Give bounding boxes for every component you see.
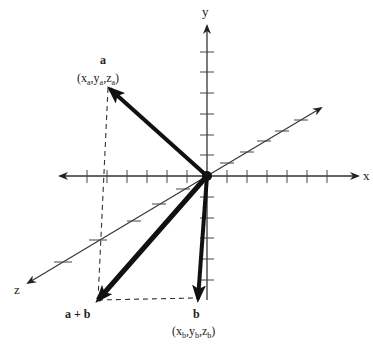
label-vector-b: b (xb,yb,zb) bbox=[172, 307, 215, 340]
vector-a-plus-b bbox=[98, 176, 207, 300]
z-axis: z bbox=[14, 108, 321, 297]
y-axis-label: y bbox=[202, 4, 209, 19]
origin-point bbox=[202, 171, 212, 181]
vector-b-name: b bbox=[193, 307, 200, 321]
vector-addition-diagram: x y bbox=[0, 0, 373, 345]
z-axis-label: z bbox=[14, 282, 20, 297]
vector-b-coords: (xb,yb,zb) bbox=[172, 324, 215, 340]
vector-a-name: a bbox=[100, 53, 106, 67]
vector-a-coords: (xa,ya,za) bbox=[77, 71, 119, 87]
label-vector-a: a (xa,ya,za) bbox=[77, 53, 119, 87]
vector-a bbox=[110, 89, 207, 176]
x-axis-label: x bbox=[363, 168, 370, 183]
x-axis: x bbox=[60, 168, 370, 183]
label-vector-a-plus-b: a + b bbox=[65, 307, 91, 321]
